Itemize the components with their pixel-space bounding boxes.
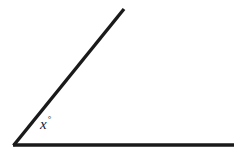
angle-diagram-figure: x° [0, 0, 239, 153]
degree-symbol-icon: ° [48, 114, 52, 124]
angle-variable: x [40, 116, 47, 132]
angle-label-x: x° [40, 116, 50, 132]
diagram-background [0, 0, 239, 153]
angle-diagram-canvas [0, 0, 239, 153]
